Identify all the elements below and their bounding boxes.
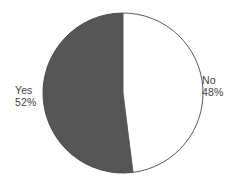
pie-slice-yes[interactable] bbox=[43, 13, 133, 173]
pie-slices bbox=[43, 13, 203, 173]
pie-label-no: No 48% bbox=[202, 74, 223, 98]
pie-label-no-name: No bbox=[202, 74, 223, 86]
pie-label-yes-value: 52% bbox=[15, 96, 36, 108]
pie-label-yes: Yes 52% bbox=[15, 84, 36, 108]
pie-label-no-value: 48% bbox=[202, 86, 223, 98]
pie-slice-no[interactable] bbox=[123, 13, 203, 172]
pie-chart: Yes 52% No 48% bbox=[0, 0, 234, 188]
pie-label-yes-name: Yes bbox=[15, 84, 36, 96]
